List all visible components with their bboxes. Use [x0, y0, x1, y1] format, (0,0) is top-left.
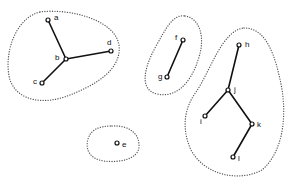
- node-circle-icon: [109, 49, 113, 53]
- node-circle-icon: [203, 114, 207, 118]
- diagram-canvas: abcdefghijkl: [0, 0, 290, 183]
- node-b: b: [55, 53, 68, 62]
- cluster-graph: abcdefghijkl: [0, 0, 290, 183]
- cluster-boundaries: [8, 11, 284, 176]
- node-label: e: [122, 140, 127, 149]
- node-i: i: [200, 114, 207, 126]
- node-circle-icon: [64, 57, 68, 61]
- node-label: k: [257, 120, 262, 129]
- node-label: l: [238, 154, 240, 163]
- edge-k-l: [233, 124, 252, 157]
- node-circle-icon: [226, 88, 230, 92]
- edge-c-b: [42, 59, 66, 83]
- node-label: c: [33, 77, 37, 86]
- node-label: f: [175, 33, 178, 42]
- graph-edges: [42, 20, 252, 157]
- node-label: j: [233, 85, 236, 94]
- node-k: k: [250, 120, 262, 129]
- node-label: d: [107, 38, 111, 47]
- node-c: c: [33, 77, 44, 86]
- node-l: l: [231, 154, 240, 163]
- node-e: e: [115, 140, 127, 149]
- node-label: b: [55, 53, 60, 62]
- node-label: a: [54, 13, 59, 22]
- edge-j-k: [228, 90, 252, 124]
- node-circle-icon: [46, 18, 50, 22]
- node-circle-icon: [237, 43, 241, 47]
- edge-j-i: [205, 90, 228, 116]
- node-circle-icon: [165, 75, 169, 79]
- cluster-2-boundary: [145, 16, 201, 95]
- node-circle-icon: [181, 38, 185, 42]
- edge-f-g: [167, 40, 183, 77]
- node-a: a: [46, 13, 59, 22]
- node-j: j: [226, 85, 236, 94]
- node-circle-icon: [231, 155, 235, 159]
- node-g: g: [158, 72, 169, 81]
- node-circle-icon: [115, 141, 119, 145]
- cluster-1-boundary: [8, 11, 119, 100]
- node-label: h: [245, 40, 249, 49]
- node-label: g: [158, 72, 162, 81]
- node-circle-icon: [40, 81, 44, 85]
- edge-b-d: [66, 51, 111, 59]
- node-label: i: [200, 117, 202, 126]
- node-f: f: [175, 33, 185, 42]
- cluster-4-boundary: [87, 126, 139, 162]
- node-circle-icon: [250, 122, 254, 126]
- edge-h-j: [228, 45, 239, 90]
